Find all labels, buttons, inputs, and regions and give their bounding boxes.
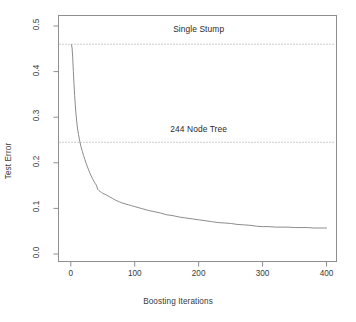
y-tick-label-0.5: 0.5 (26, 20, 48, 29)
test-error-line-chart (0, 0, 356, 322)
data-series (71, 45, 326, 228)
y-tick-label-text: 0.1 (32, 201, 41, 212)
y-tick-label-0.1: 0.1 (26, 202, 48, 211)
chart-figure: Boosting Iterations Test Error 010020030… (0, 0, 356, 322)
plot-border (59, 16, 337, 262)
x-tick-label-400: 400 (312, 269, 342, 278)
y-tick-label-text: 0.3 (32, 110, 41, 121)
x-tick-label-0: 0 (56, 269, 86, 278)
plot-frame (59, 16, 337, 262)
y-tick-label-0.2: 0.2 (26, 157, 48, 166)
y-tick-label-text: 0.0 (32, 247, 41, 258)
annotation-single-stump: Single Stump (139, 24, 259, 34)
y-tick-label-0.4: 0.4 (26, 66, 48, 75)
y-axis-title-text: Test Error (4, 143, 13, 179)
y-tick-label-text: 0.2 (32, 156, 41, 167)
x-tick-label-300: 300 (248, 269, 278, 278)
y-tick-label-0.0: 0.0 (26, 248, 48, 257)
annotation-244-node-tree: 244 Node Tree (139, 124, 259, 134)
y-tick-label-text: 0.4 (32, 64, 41, 75)
x-tick-label-100: 100 (120, 269, 150, 278)
series-line-test-error (71, 45, 326, 228)
x-tick-label-200: 200 (184, 269, 214, 278)
y-tick-label-text: 0.5 (32, 19, 41, 30)
x-axis-title: Boosting Iterations (0, 297, 356, 306)
axis-ticks (54, 26, 327, 267)
y-axis-title: Test Error (0, 0, 16, 322)
y-tick-label-0.3: 0.3 (26, 111, 48, 120)
